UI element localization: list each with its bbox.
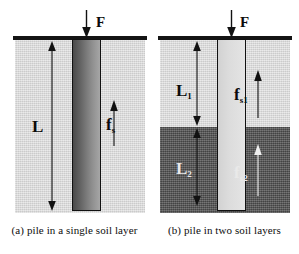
length-dimension-arrow-L2 <box>193 128 201 206</box>
label-fs: fs <box>106 116 115 133</box>
panel-single-soil-layer: L fs F (a) pile in a single soil layer <box>0 0 149 254</box>
label-fs1: fs1 <box>234 86 248 103</box>
force-arrow-F <box>82 10 91 38</box>
pile-soil-figure: L fs F (a) pile in a single soil layer <box>0 0 299 254</box>
panel-a-vectors <box>0 0 149 254</box>
caption-panel-b: (b) pile in two soil layers <box>150 224 299 236</box>
label-L: L <box>32 118 43 135</box>
label-F: F <box>240 15 249 30</box>
label-L2: L2 <box>176 160 192 177</box>
friction-arrow-fs1 <box>254 70 262 118</box>
label-fs2: fs2 <box>234 164 248 181</box>
caption-panel-a: (a) pile in a single soil layer <box>0 224 149 236</box>
force-arrow-F <box>227 10 236 38</box>
label-F: F <box>96 15 105 30</box>
friction-arrow-fs2 <box>254 144 262 196</box>
label-L1: L1 <box>176 82 192 99</box>
panel-two-soil-layers: F L1 L2 fs1 fs2 (b) pile in two soil lay… <box>150 0 299 254</box>
length-dimension-arrow-L <box>48 41 56 211</box>
length-dimension-arrow-L1 <box>193 41 201 126</box>
panel-b-vectors <box>150 0 299 254</box>
